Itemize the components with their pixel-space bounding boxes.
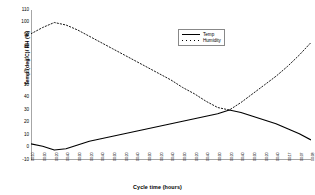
x-axis-tick-label: 00:40: [277, 153, 281, 162]
y-axis-tick-label: 50: [15, 83, 29, 88]
y-axis-tick-label: 110: [15, 8, 29, 13]
x-axis-tick-label: 00:00: [184, 153, 188, 162]
y-axis-tick-label: 70: [15, 58, 29, 63]
x-axis-tick-label: 00:00: [219, 153, 223, 162]
y-axis-tick-label: 80: [15, 45, 29, 50]
y-axis-tick-label: 20: [15, 120, 29, 125]
y-axis-tick-labels: 1101009080706050403020100-10: [12, 0, 29, 195]
x-axis-tick-label: 00:07: [301, 153, 305, 162]
y-axis-tick-label: -10: [15, 158, 29, 163]
legend-swatch-dotted-line-icon: [181, 38, 201, 44]
x-axis-tick-label: 00:20: [56, 153, 60, 162]
legend-item-humidity: Humidity: [181, 38, 221, 44]
chart-container: Temp (deg C)/ RH (%) 1101009080706050403…: [0, 0, 315, 195]
x-axis-tick-label: 00:08: [312, 153, 315, 162]
legend-label-humidity: Humidity: [203, 38, 221, 43]
x-axis-tick-label: 00:17: [289, 153, 293, 162]
x-axis-tick-label: 00:20: [91, 153, 95, 162]
y-axis-tick-label: 30: [15, 108, 29, 113]
x-axis-tick-label: 00:40: [242, 153, 246, 162]
x-axis-title: Cycle time (hours): [0, 184, 315, 190]
x-axis-tick-label: 00:40: [102, 153, 106, 162]
x-axis-tick-label: 00:40: [172, 153, 176, 162]
x-axis-tick-label: 00:40: [67, 153, 71, 162]
x-axis-tick-label: 00:00: [254, 153, 258, 162]
chart-legend: Temp Humidity: [178, 29, 225, 46]
x-axis-tick-label: 00:00: [114, 153, 118, 162]
x-axis-tick-labels: 00:1000:0000:2000:4000:0000:2000:4000:00…: [31, 160, 311, 182]
x-axis-tick-label: 00:10: [32, 153, 36, 162]
legend-label-temp: Temp: [203, 32, 214, 37]
plot-area: [31, 10, 311, 160]
series-line-humidity: [31, 23, 311, 111]
x-axis-tick-label: 00:20: [126, 153, 130, 162]
y-axis-tick-label: 40: [15, 95, 29, 100]
x-axis-tick-label: 00:00: [79, 153, 83, 162]
y-axis-tick-label: 100: [15, 20, 29, 25]
x-axis-tick-label: 00:20: [161, 153, 165, 162]
x-axis-tick-label: 00:00: [149, 153, 153, 162]
y-axis-tick-label: 60: [15, 70, 29, 75]
y-axis-tick-label: 0: [15, 145, 29, 150]
x-axis-tick-label: 00:00: [44, 153, 48, 162]
x-axis-tick-label: 00:40: [137, 153, 141, 162]
x-axis-tick-label: 00:40: [207, 153, 211, 162]
x-axis-tick-label: 00:20: [196, 153, 200, 162]
y-axis-tick-label: 90: [15, 33, 29, 38]
y-axis-tick-label: 10: [15, 133, 29, 138]
x-axis-tick-label: 00:20: [231, 153, 235, 162]
plot-svg: [31, 10, 311, 160]
series-line-temp: [31, 110, 311, 150]
axis-lines: [31, 10, 311, 160]
x-axis-tick-label: 00:20: [266, 153, 270, 162]
